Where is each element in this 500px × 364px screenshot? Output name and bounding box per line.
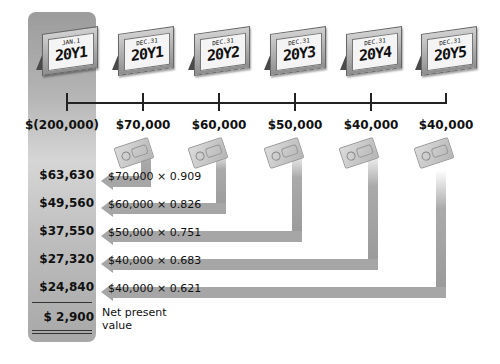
timeline-tick bbox=[142, 93, 144, 111]
calendar-year: 20Y2 bbox=[201, 43, 245, 65]
timeline-tick bbox=[66, 93, 68, 111]
calendar-year: 20Y4 bbox=[353, 43, 397, 65]
calendar-year: 20Y1 bbox=[49, 43, 93, 65]
arrow-shaft-year5 bbox=[436, 170, 446, 298]
pv-calculation-year1: $70,000 × 0.909 bbox=[108, 170, 201, 183]
cash-icon bbox=[413, 137, 454, 169]
timeline-tick bbox=[294, 93, 296, 111]
pv-calculation-year5: $40,000 × 0.621 bbox=[108, 282, 201, 295]
arrow-shaft-year4 bbox=[368, 150, 378, 270]
calendar-icon-dec31-20y5: DEC.31 20Y5 bbox=[415, 30, 477, 74]
present-value-year2: $49,560 bbox=[30, 196, 94, 210]
net-present-value-label: Net present value bbox=[102, 306, 172, 332]
pv-calculation-year2: $60,000 × 0.826 bbox=[108, 198, 201, 211]
present-value-year4: $27,320 bbox=[30, 252, 94, 266]
calendar-icon-dec31-20y3: DEC.31 20Y3 bbox=[264, 30, 326, 74]
present-value-year3: $37,550 bbox=[30, 224, 94, 238]
sum-rule bbox=[32, 302, 92, 303]
calendar-icon-dec31-20y2: DEC.31 20Y2 bbox=[188, 30, 250, 74]
double-rule-top bbox=[32, 330, 92, 331]
timeline-tick bbox=[218, 93, 220, 111]
pv-calculation-year4: $40,000 × 0.683 bbox=[108, 254, 201, 267]
cash-flow-year0: $(200,000) bbox=[17, 118, 107, 132]
timeline-tick bbox=[445, 93, 447, 104]
timeline bbox=[67, 102, 447, 104]
net-present-value: $ 2,900 bbox=[30, 310, 94, 324]
calendar-icon-dec31-20y4: DEC.31 20Y4 bbox=[340, 30, 402, 74]
timeline-tick bbox=[370, 93, 372, 111]
calendar-year: 20Y1 bbox=[125, 43, 169, 65]
calendar-year: 20Y3 bbox=[277, 43, 321, 65]
pv-calculation-year3: $50,000 × 0.751 bbox=[108, 226, 201, 239]
calendar-icon-jan1-20y1: JAN.1 20Y1 bbox=[36, 30, 98, 74]
cash-flow-year5: $40,000 bbox=[401, 118, 491, 132]
arrow-shaft-year3 bbox=[292, 150, 302, 242]
present-value-year1: $63,630 bbox=[30, 168, 94, 182]
double-rule-bottom bbox=[32, 333, 92, 334]
calendar-icon-dec31-20y1: DEC.31 20Y1 bbox=[112, 30, 174, 74]
calendar-year: 20Y5 bbox=[428, 43, 472, 65]
present-value-year5: $24,840 bbox=[30, 280, 94, 294]
